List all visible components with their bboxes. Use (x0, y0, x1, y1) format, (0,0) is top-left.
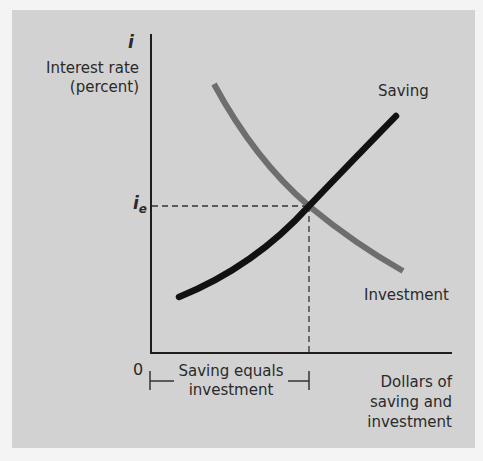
investment-curve-label: Investment (364, 286, 449, 305)
y-axis-title-line2: (percent) (20, 78, 139, 97)
bracket-label: Saving equals investment (172, 362, 290, 400)
x-axis-title-line3: investment (340, 412, 452, 432)
x-axis-title-line2: saving and (340, 392, 452, 412)
equilibrium-rate-label: ie (133, 194, 147, 219)
saving-curve-label: Saving (378, 82, 429, 101)
origin-label: 0 (133, 360, 143, 379)
investment-curve (214, 84, 403, 271)
x-axis-title-line1: Dollars of (340, 372, 452, 392)
y-axis-symbol: i (128, 33, 134, 52)
y-axis-title: Interest rate (percent) (20, 59, 139, 97)
ie-sub: e (139, 202, 147, 216)
y-axis-title-line1: Interest rate (20, 59, 139, 78)
x-axis-title: Dollars of saving and investment (340, 372, 452, 432)
bracket-label-line2: investment (172, 381, 290, 400)
bracket-label-line1: Saving equals (172, 362, 290, 381)
